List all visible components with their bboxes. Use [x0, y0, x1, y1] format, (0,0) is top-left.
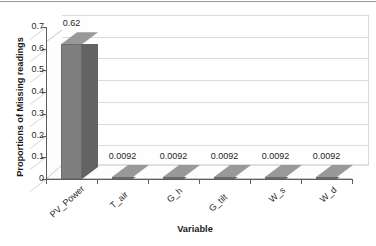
gridline	[62, 102, 368, 103]
bar-value-label: 0.0092	[248, 151, 304, 161]
x-category-label: G_tilt	[207, 192, 229, 213]
x-category-label: G_h	[165, 185, 184, 204]
bar-front-face	[61, 44, 82, 179]
x-category-label: T_air	[108, 189, 130, 210]
x-axis-title: Variable	[120, 224, 270, 234]
figure-top-rule	[0, 1, 376, 2]
bar-front-face	[112, 177, 133, 179]
y-axis-line	[46, 27, 47, 179]
gridline	[62, 80, 368, 81]
bar-value-label: 0.0092	[299, 151, 355, 161]
x-category-label: W_d	[318, 184, 338, 204]
gridline	[62, 15, 368, 16]
bar-value-label: 0.62	[44, 18, 100, 28]
x-tick-mark	[301, 179, 302, 184]
x-tick-mark	[148, 179, 149, 184]
missing-readings-bar-chart: 00.10.20.30.40.50.60.7 0.620.00920.00920…	[0, 0, 376, 246]
x-category-label: PV_Power	[48, 183, 86, 219]
bar-front-face	[265, 177, 286, 179]
gridline	[62, 145, 368, 146]
x-category-label: W_s	[267, 185, 287, 204]
x-tick-mark	[46, 179, 47, 184]
x-tick-mark	[97, 179, 98, 184]
bar-front-face	[214, 177, 235, 179]
gridline	[62, 58, 368, 59]
bar-value-label: 0.0092	[146, 151, 202, 161]
bar-value-label: 0.0092	[95, 151, 151, 161]
x-tick-mark	[250, 179, 251, 184]
gridline	[62, 124, 368, 125]
bar-front-face	[163, 177, 184, 179]
bar-front-face	[316, 177, 337, 179]
y-axis-title: Proportions of Missing readings	[15, 19, 25, 195]
bar-value-label: 0.0092	[197, 151, 253, 161]
x-tick-mark	[199, 179, 200, 184]
gridline	[62, 37, 368, 38]
x-tick-mark	[352, 179, 353, 184]
